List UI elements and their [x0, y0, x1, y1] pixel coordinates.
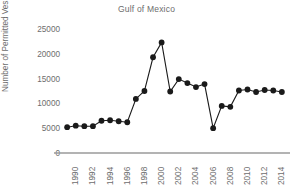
chart-canvas: Gulf of Mexico Number of Permitted Vesse… — [0, 0, 293, 191]
data-series-line — [67, 42, 282, 128]
data-point-marker — [270, 88, 276, 94]
plot-area — [0, 0, 293, 191]
data-point-marker — [227, 104, 233, 110]
data-point-marker — [236, 88, 242, 94]
data-point-marker — [116, 118, 122, 124]
data-point-marker — [193, 84, 199, 90]
data-point-marker — [202, 81, 208, 87]
data-point-marker — [133, 96, 139, 102]
data-point-marker — [124, 119, 130, 125]
data-point-marker — [73, 123, 79, 129]
data-point-marker — [81, 123, 87, 129]
data-point-marker — [279, 89, 285, 95]
chart-figure-root: { "chart_data": { "type": "line", "title… — [0, 0, 293, 191]
data-point-marker — [184, 80, 190, 86]
data-point-marker — [142, 88, 148, 94]
data-point-marker — [90, 123, 96, 129]
data-point-marker — [219, 103, 225, 109]
data-point-marker — [262, 87, 268, 93]
data-point-marker — [210, 125, 216, 131]
data-point-marker — [176, 76, 182, 82]
data-point-marker — [99, 118, 105, 124]
data-point-marker — [150, 54, 156, 60]
data-point-marker — [64, 124, 70, 130]
data-point-marker — [107, 117, 113, 123]
data-point-marker — [167, 89, 173, 95]
data-point-marker — [159, 39, 165, 45]
data-point-marker — [253, 89, 259, 95]
data-point-marker — [245, 87, 251, 93]
